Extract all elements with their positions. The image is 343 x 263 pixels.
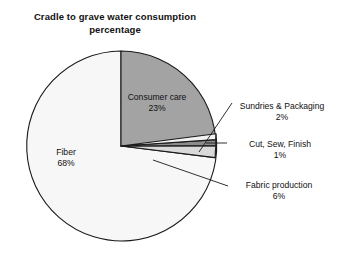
pie-chart-figure: Cradle to grave water consumption percen… [0,0,343,263]
slice-label-consumer-care-name: Consumer care [128,92,187,102]
slice-label-cut-sew-finish-pct: 1% [228,150,332,161]
slice-label-sundries-packaging: Sundries & Packaging 2% [222,101,342,123]
slice-label-fabric-production-pct: 6% [224,191,334,202]
slice-label-fabric-production: Fabric production 6% [224,180,334,202]
slice-label-fiber-pct: 68% [38,158,94,169]
slice-label-sundries-packaging-pct: 2% [222,112,342,123]
slice-label-fabric-production-name: Fabric production [246,180,312,190]
slice-label-consumer-care: Consumer care 23% [118,92,196,114]
slice-label-fiber-name: Fiber [56,147,76,157]
slice-label-cut-sew-finish-name: Cut, Sew, Finish [249,139,311,149]
pie-svg [0,0,343,263]
slice-label-consumer-care-pct: 23% [118,103,196,114]
slice-label-fiber: Fiber 68% [38,147,94,169]
slice-label-cut-sew-finish: Cut, Sew, Finish 1% [228,139,332,161]
slice-label-sundries-packaging-name: Sundries & Packaging [240,101,325,111]
